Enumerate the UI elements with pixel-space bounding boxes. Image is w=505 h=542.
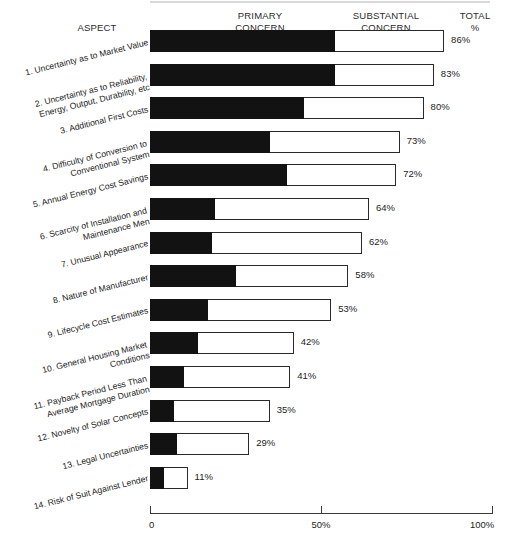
x-axis-tick-label: 50% — [312, 519, 331, 530]
bar-segment-primary-concern — [150, 366, 184, 388]
bar-value-label: 73% — [407, 135, 426, 147]
bar-row: 73% — [150, 131, 400, 153]
bar-segment-primary-concern — [150, 400, 174, 422]
bar-segment-primary-concern — [150, 64, 335, 86]
x-axis-tick-label: 0 — [149, 519, 154, 530]
bar-row: 53% — [150, 299, 331, 321]
bar-row: 29% — [150, 433, 249, 455]
bar-row: 62% — [150, 232, 362, 254]
bar-segment-primary-concern — [150, 265, 236, 287]
bar-value-label: 86% — [451, 34, 470, 46]
bar-value-label: 29% — [256, 437, 275, 449]
bar-chart-plot-area: 86%1. Uncertainty as to Market Value83%2… — [0, 0, 505, 542]
bar-row: 11% — [150, 467, 188, 489]
bar-value-label: 64% — [376, 202, 395, 214]
bar-segment-primary-concern — [150, 232, 212, 254]
bar-value-label: 58% — [355, 269, 374, 281]
bar-row: 58% — [150, 265, 348, 287]
bar-value-label: 35% — [277, 404, 296, 416]
bar-value-label: 72% — [403, 168, 422, 180]
bar-value-label: 83% — [441, 68, 460, 80]
x-axis-tick — [150, 506, 151, 514]
bar-segment-primary-concern — [150, 30, 335, 52]
bar-row: 41% — [150, 366, 290, 388]
x-axis-tick — [492, 506, 493, 514]
bar-value-label: 42% — [301, 336, 320, 348]
bar-segment-primary-concern — [150, 433, 177, 455]
bar-row: 83% — [150, 64, 434, 86]
bar-segment-primary-concern — [150, 467, 164, 489]
bar-row: 72% — [150, 164, 396, 186]
bar-row: 64% — [150, 198, 369, 220]
bar-segment-primary-concern — [150, 332, 198, 354]
bar-row: 86% — [150, 30, 444, 52]
bar-row: 42% — [150, 332, 294, 354]
bar-value-label: 80% — [431, 101, 450, 113]
bar-value-label: 53% — [338, 303, 357, 315]
bar-row: 35% — [150, 400, 270, 422]
bar-segment-primary-concern — [150, 198, 215, 220]
x-axis: 050%100% — [150, 505, 492, 535]
bar-value-label: 11% — [195, 471, 213, 483]
bar-value-label: 41% — [297, 370, 316, 382]
bar-row: 80% — [150, 97, 424, 119]
bar-segment-primary-concern — [150, 131, 270, 153]
bar-segment-primary-concern — [150, 164, 287, 186]
bar-value-label: 62% — [369, 236, 388, 248]
x-axis-tick-label: 100% — [470, 519, 494, 530]
bar-segment-primary-concern — [150, 299, 208, 321]
x-axis-tick — [321, 506, 322, 514]
bar-segment-primary-concern — [150, 97, 304, 119]
